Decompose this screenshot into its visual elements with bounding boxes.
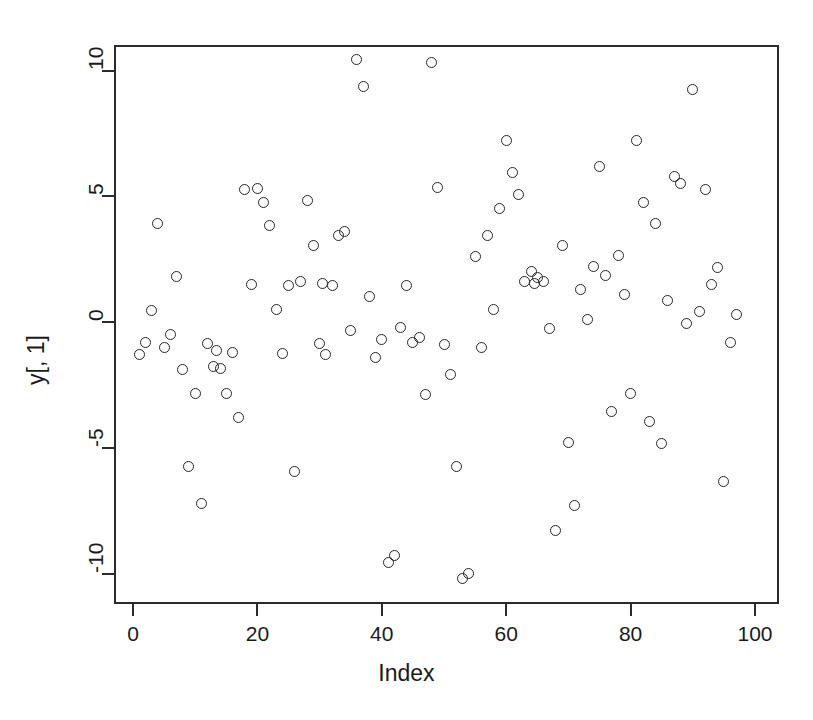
y-axis-title-text: y[, 1] xyxy=(23,335,50,385)
x-tick-mark xyxy=(381,604,383,616)
plot-area-frame xyxy=(114,45,779,604)
x-tick-mark xyxy=(754,604,756,616)
x-tick-label: 80 xyxy=(619,622,642,646)
x-tick-label: 20 xyxy=(246,622,269,646)
scatter-plot-figure: 020406080100 -10-50510 Index y[, 1] xyxy=(0,0,813,720)
x-axis-title: Index xyxy=(0,660,813,687)
x-tick-mark xyxy=(256,604,258,616)
y-axis-title: y[, 1] xyxy=(16,0,56,720)
x-tick-label: 100 xyxy=(737,622,772,646)
y-tick-mark xyxy=(102,321,114,323)
x-tick-label: 0 xyxy=(127,622,139,646)
x-tick-label: 60 xyxy=(495,622,518,646)
x-tick-mark xyxy=(630,604,632,616)
x-tick-label: 40 xyxy=(370,622,393,646)
y-tick-mark xyxy=(102,447,114,449)
x-tick-mark xyxy=(132,604,134,616)
x-tick-mark xyxy=(505,604,507,616)
y-tick-mark xyxy=(102,195,114,197)
